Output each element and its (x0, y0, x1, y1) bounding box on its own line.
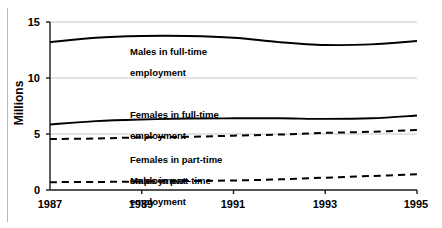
x-tick-label-1991: 1991 (210, 199, 256, 210)
x-tick-label-1995: 1995 (393, 199, 439, 210)
series-label-males-part-time-line1: Males in part-time (130, 176, 211, 187)
series-label-females-full-time-line1: Females in full-time (130, 110, 219, 121)
series-label-males-part-time: Males in part-time employment (130, 165, 211, 218)
series-label-females-full-time-line2: employment (130, 131, 219, 142)
y-tick-label-10: 10 (14, 73, 40, 84)
series-label-females-part-time-line1: Females in part-time (130, 155, 222, 166)
data-series-group (50, 36, 417, 182)
series-label-males-full-time: Males in full-time employment (130, 36, 207, 89)
series-line-0 (50, 36, 417, 45)
gridlines (50, 22, 417, 134)
y-tick-label-5: 5 (14, 129, 40, 140)
series-label-males-full-time-line1: Males in full-time (130, 47, 207, 58)
x-tick-label-1993: 1993 (302, 199, 348, 210)
y-tick-label-0: 0 (14, 185, 40, 196)
axis-ticks (46, 22, 417, 194)
series-label-males-full-time-line2: employment (130, 68, 207, 79)
chart-figure: Millions 15 10 5 0 1987 1989 1991 1993 1… (0, 0, 442, 228)
series-label-males-part-time-line2: employment (130, 197, 211, 208)
series-line-3 (50, 174, 417, 182)
series-line-1 (50, 116, 417, 125)
x-tick-label-1987: 1987 (27, 199, 73, 210)
y-tick-label-15: 15 (14, 17, 40, 28)
axis-lines (50, 22, 417, 190)
